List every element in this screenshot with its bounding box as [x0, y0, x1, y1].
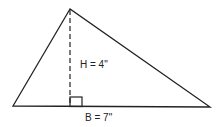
height-label: H = 4"	[80, 59, 108, 70]
base-label: B = 7"	[85, 112, 113, 123]
right-angle-marker	[70, 97, 82, 107]
triangle-diagram: H = 4" B = 7"	[0, 0, 219, 127]
triangle	[13, 9, 210, 107]
